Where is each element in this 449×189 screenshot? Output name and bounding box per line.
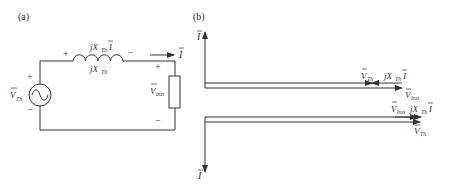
svg-text:jX: jX	[409, 104, 419, 114]
panel-b-phasor-diagram: (b) I V Th jX Th I V	[193, 11, 433, 181]
panel-b-label: (b)	[193, 11, 205, 23]
svg-text:Th: Th	[420, 131, 426, 137]
load-minus: −	[155, 115, 161, 126]
figure-canvas: (a) + − V Th + − jX	[0, 0, 449, 189]
svg-text:I: I	[402, 71, 407, 81]
svg-text:I: I	[197, 170, 202, 181]
lower-current-label: I	[197, 170, 203, 181]
source-plus: +	[27, 71, 33, 82]
upper-vbus-label: V bus	[405, 89, 420, 101]
svg-text:I: I	[196, 31, 201, 42]
lower-vbus-label: V bus	[391, 102, 406, 115]
svg-text:jX: jX	[89, 42, 99, 52]
load-plus: +	[155, 61, 161, 72]
lower-jx-label: jX Th I	[409, 103, 433, 115]
upper-current-label: I	[196, 31, 202, 42]
upper-phasor-diagram: I V Th jX Th I V bus	[196, 31, 420, 101]
source-minus: −	[27, 104, 33, 115]
svg-text:bus: bus	[411, 95, 420, 101]
svg-text:Th: Th	[101, 69, 107, 75]
source-voltage-label: V Th	[10, 88, 22, 102]
inductor-icon	[73, 55, 123, 61]
ac-source-icon	[29, 84, 51, 106]
inductor-minus: −	[128, 47, 134, 58]
svg-text:Th: Th	[101, 47, 107, 53]
inductor-reactance-label: jX Th	[89, 64, 107, 75]
panel-a-circuit: (a) + − V Th + − jX	[10, 11, 184, 130]
lower-vth-label: V Th	[414, 125, 426, 137]
svg-text:Th: Th	[367, 76, 373, 82]
upper-vth-label: V Th	[361, 69, 373, 82]
svg-text:Th: Th	[16, 96, 22, 102]
svg-text:jX: jX	[89, 64, 99, 74]
panel-a-label: (a)	[18, 11, 29, 23]
bus-voltage-label: V bus	[150, 84, 165, 97]
svg-text:I: I	[178, 49, 183, 60]
upper-jx-label: jX Th I	[383, 70, 407, 82]
inductor-voltage-label: jX Th I	[89, 41, 113, 53]
inductor-plus: +	[63, 48, 69, 59]
svg-text:bus: bus	[397, 109, 406, 115]
load-resistor-icon	[169, 76, 180, 108]
current-label: I	[178, 48, 184, 60]
lower-phasor-diagram: I V bus jX Th I V Th	[197, 102, 433, 181]
svg-text:Th: Th	[395, 76, 401, 82]
svg-text:jX: jX	[383, 71, 393, 81]
svg-text:I: I	[428, 104, 433, 114]
svg-text:Th: Th	[421, 109, 427, 115]
svg-text:bus: bus	[156, 91, 165, 97]
svg-text:I: I	[108, 42, 113, 52]
